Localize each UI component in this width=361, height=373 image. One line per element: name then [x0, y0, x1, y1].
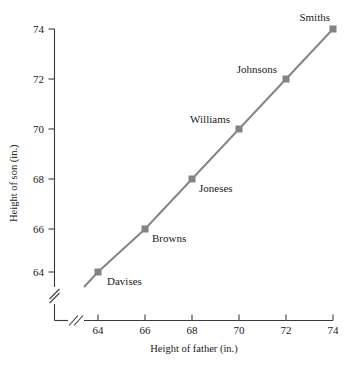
y-tick-label-64: 64 — [33, 266, 45, 278]
x-axis-title: Height of father (in.) — [150, 343, 238, 355]
x-axis-ticks — [98, 315, 333, 321]
point-label-williams: Williams — [190, 113, 230, 125]
y-tick-label-68: 68 — [33, 173, 45, 185]
y-tick-label-72: 72 — [33, 73, 44, 85]
point-label-joneses: Joneses — [199, 182, 233, 194]
data-point-williams[interactable] — [236, 126, 243, 133]
data-point-browns[interactable] — [142, 226, 149, 233]
x-tick-label-66: 66 — [140, 324, 152, 336]
y-tick-label-66: 66 — [33, 223, 45, 235]
data-point-joneses[interactable] — [189, 176, 196, 183]
chart-figure: 74 72 70 68 66 64 Height of son (in.) 64… — [0, 0, 361, 373]
scatter-plot: 74 72 70 68 66 64 Height of son (in.) 64… — [0, 0, 361, 373]
x-tick-label-72: 72 — [281, 324, 292, 336]
data-trend-line — [84, 29, 333, 287]
x-tick-label-64: 64 — [93, 324, 105, 336]
x-axis-break-slash-1 — [69, 316, 78, 326]
y-tick-label-74: 74 — [33, 23, 45, 35]
y-axis-title: Height of son (in.) — [8, 144, 20, 222]
point-label-davises: Davises — [107, 275, 142, 287]
x-tick-label-74: 74 — [328, 324, 340, 336]
point-label-browns: Browns — [152, 232, 186, 244]
x-tick-label-68: 68 — [187, 324, 199, 336]
point-label-smiths: Smiths — [299, 11, 330, 23]
data-point-davises[interactable] — [95, 269, 102, 276]
y-tick-label-70: 70 — [33, 123, 45, 135]
data-point-johnsons[interactable] — [283, 76, 290, 83]
data-point-smiths[interactable] — [330, 26, 337, 33]
x-axis-break-slash-2 — [74, 316, 83, 326]
point-label-johnsons: Johnsons — [237, 63, 277, 75]
y-axis-ticks — [49, 29, 55, 272]
x-tick-label-70: 70 — [234, 324, 246, 336]
